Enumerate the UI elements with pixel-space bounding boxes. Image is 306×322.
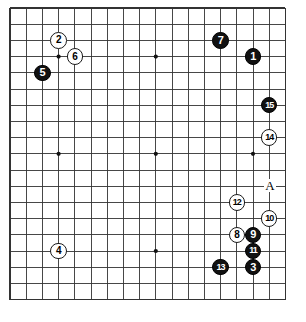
stone-black-13[interactable]: 13 [212,259,229,276]
stone-layer: 123456789101112131415A [0,0,306,322]
stone-white-14[interactable]: 14 [261,129,278,146]
stone-black-1[interactable]: 1 [245,48,262,65]
stone-white-6[interactable]: 6 [67,48,84,65]
stone-black-5[interactable]: 5 [34,65,51,82]
stone-black-15[interactable]: 15 [261,97,278,114]
stone-white-4[interactable]: 4 [50,243,67,260]
stone-black-7[interactable]: 7 [212,32,229,49]
go-board-diagram: 123456789101112131415A [0,0,306,322]
stone-white-12[interactable]: 12 [229,194,246,211]
point-label-A: A [264,179,275,192]
stone-black-9[interactable]: 9 [245,227,262,244]
stone-white-2[interactable]: 2 [50,32,67,49]
stone-black-11[interactable]: 11 [245,243,262,260]
stone-black-3[interactable]: 3 [245,259,262,276]
stone-white-10[interactable]: 10 [261,210,278,227]
stone-white-8[interactable]: 8 [229,227,246,244]
